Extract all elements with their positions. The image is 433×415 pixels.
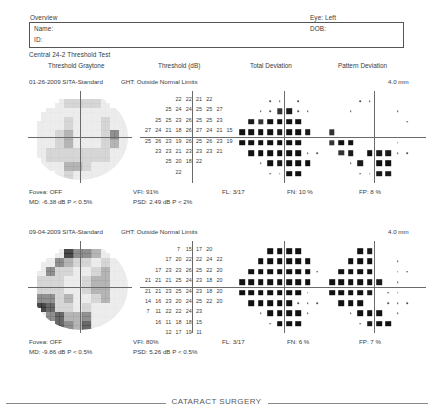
deviation-point [339,150,344,155]
deviation-point [277,269,283,275]
deviation-point [367,301,372,306]
deviation-point [267,140,273,146]
threshold-value: 21 [145,288,151,294]
threshold-value: 21 [165,277,171,283]
deviation-point [377,301,382,306]
threshold-db-plot: 2222212225242425252725252326252523272421… [140,91,244,183]
deviation-point [296,290,302,296]
deviation-point [298,100,300,102]
deviation-point [358,130,363,135]
threshold-value: 25 [176,288,182,294]
false-positives-value: FP: 8 % [359,188,381,195]
deviation-point [386,249,391,254]
deviation-point [339,290,345,296]
threshold-value: 26 [186,127,192,133]
graytone-cell [101,175,106,180]
deviation-point [348,130,353,135]
deviation-point [279,173,281,175]
deviation-point [296,248,302,254]
deviation-point [286,300,292,306]
deviation-point [367,248,373,254]
fovea-value: Fovea: OFF [29,188,62,195]
threshold-value: 18 [186,319,192,325]
threshold-value: 18 [176,127,182,133]
deviation-point [258,129,264,135]
deviation-point [267,129,273,135]
deviation-point [315,119,320,124]
deviation-point [267,290,273,296]
deviation-point [277,119,283,125]
threshold-value: 22 [206,298,212,304]
graytone-cell [101,325,106,330]
horizontal-axis [322,137,426,138]
deviation-point [277,129,283,135]
deviation-point [397,271,399,273]
patient-dob-field[interactable]: DOB: [310,25,326,32]
deviation-point [249,119,255,125]
fixation-losses-value: FL: 3/17 [222,338,245,345]
deviation-point [386,171,392,177]
deviation-point [377,109,382,114]
deviation-point [369,173,371,175]
deviation-point [388,292,390,294]
deviation-point [305,129,311,135]
threshold-db-plot: 7151720172022222422172323262522202121212… [140,241,244,333]
deviation-point [307,111,309,113]
threshold-value: 17 [155,267,161,273]
threshold-value: 23 [196,288,202,294]
deviation-point [397,313,399,315]
deviation-point [359,323,361,325]
threshold-value: 23 [155,148,161,154]
deviation-point [286,109,292,115]
deviation-point [386,161,392,167]
deviation-point [277,259,283,265]
threshold-value: 18 [176,319,182,325]
deviation-point [395,130,400,135]
horizontal-axis [322,287,426,288]
ght-result: GHT: Outside Normal Limits [121,228,198,235]
deviation-point [296,161,302,167]
deviation-point [367,321,373,327]
threshold-value: 22 [186,96,192,102]
threshold-value: 26 [206,138,212,144]
deviation-point [258,119,263,124]
horizontal-axis [232,287,336,288]
deviation-point [305,279,311,285]
deviation-point [249,140,255,146]
threshold-value: 21 [196,96,202,102]
deviation-point [296,321,302,327]
deviation-point [386,259,391,264]
deviation-point [339,269,345,275]
deviation-point [269,100,271,102]
deviation-point [348,119,353,124]
deviation-point [277,109,282,114]
deviation-point [286,171,292,177]
threshold-value: 24 [176,106,182,112]
deviation-point [386,140,391,145]
threshold-value: 22 [176,169,182,175]
deviation-point [305,161,311,167]
deviation-point [305,140,310,145]
deviation-point [350,111,352,113]
deviation-point [386,269,391,274]
deviation-point [348,259,354,265]
threshold-value: 24 [186,277,192,283]
deviation-point [296,119,302,125]
threshold-value: 25 [155,117,161,123]
vfi-value: VFI: 91% [133,188,158,195]
deviation-point [298,111,300,113]
deviation-point [377,130,382,135]
horizontal-axis [232,137,336,138]
threshold-value: 16 [155,298,161,304]
deviation-point [267,311,273,317]
deviation-point [286,119,292,125]
visual-field-report: Overview Eye: Left Name: ID: DOB: Centra… [0,0,433,415]
deviation-point [397,281,399,283]
patient-name-field[interactable]: Name: [34,25,53,32]
threshold-value: 18 [206,277,212,283]
threshold-value: 22 [165,308,171,314]
patient-id-field[interactable]: ID: [34,36,42,43]
vfi-value: VFI: 80% [133,338,158,345]
deviation-point [348,140,354,146]
deviation-point [258,279,264,285]
